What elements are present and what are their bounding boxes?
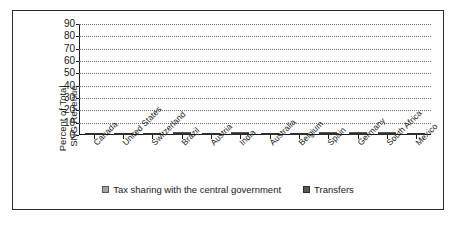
chart-frame: Percent of Total SNG Revenue 01020304050… — [12, 10, 444, 210]
x-axis-label-slot: South Africa — [372, 139, 401, 187]
y-axis-tick-label: 60 — [64, 56, 75, 66]
bar-slot — [79, 24, 108, 135]
x-axis-label-slot: India — [226, 139, 255, 187]
bar-slot — [343, 24, 372, 135]
y-axis-title: Percent of Total SNG Revenue — [27, 25, 53, 135]
x-axis-label-slot: Brazil — [167, 139, 196, 187]
bar-slot — [255, 24, 284, 135]
x-axis-label-slot: Australia — [255, 139, 284, 187]
x-axis-label-slot: Austria — [196, 139, 225, 187]
legend-item-tax-sharing: Tax sharing with the central government — [102, 184, 281, 195]
legend-item-transfers: Transfers — [303, 184, 354, 195]
legend-label-transfers: Transfers — [314, 184, 354, 195]
y-axis-tick-label: 70 — [64, 44, 75, 54]
y-axis-tick-label: 50 — [64, 68, 75, 78]
bar-slot — [196, 24, 225, 135]
y-axis-tick-label: 0 — [69, 130, 75, 140]
chart-legend: Tax sharing with the central government … — [13, 184, 443, 195]
y-axis-tick-label: 40 — [64, 81, 75, 91]
legend-label-tax-sharing: Tax sharing with the central government — [113, 184, 281, 195]
x-axis-label-slot: Switzerland — [138, 139, 167, 187]
x-axis-label-slot: Germany — [343, 139, 372, 187]
y-axis-tick-label: 90 — [64, 19, 75, 29]
x-axis-label-slot: Belgium — [284, 139, 313, 187]
x-axis-labels: CanadaUnited StatesSwitzerlandBrazilAust… — [79, 139, 431, 187]
x-axis-label-slot: Canada — [79, 139, 108, 187]
x-axis-label-slot: Spain — [314, 139, 343, 187]
y-axis-tick-label: 20 — [64, 105, 75, 115]
x-axis-label-slot: United States — [108, 139, 137, 187]
legend-swatch-tax-sharing — [102, 186, 109, 193]
y-axis-tick-label: 80 — [64, 31, 75, 41]
legend-swatch-transfers — [303, 186, 310, 193]
x-axis-label-slot: Mexico — [402, 139, 431, 187]
bar-slot — [226, 24, 255, 135]
y-axis-tick-label: 30 — [64, 93, 75, 103]
y-axis-tick-label: 10 — [64, 118, 75, 128]
